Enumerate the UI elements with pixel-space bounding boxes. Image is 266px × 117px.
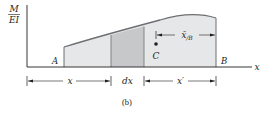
- moment-area-diagram: M EI x A B C x̄/B x dx x′ (b): [0, 0, 266, 117]
- y-axis-label-m: M: [8, 4, 19, 14]
- dim-xprime-arrow-right-icon: [210, 80, 215, 83]
- dim-xprime-arrow-left-icon: [145, 80, 150, 83]
- x-axis-label: x: [254, 62, 259, 72]
- dim-x-arrow-right-icon: [105, 80, 110, 83]
- figure-caption: (b): [122, 97, 132, 107]
- dim-dx-label: dx: [122, 76, 133, 86]
- dim-xprime-label: x′: [177, 76, 184, 86]
- point-a-label: A: [51, 56, 58, 66]
- centroid-label: C: [153, 51, 160, 61]
- y-axis-label-ei: EI: [8, 15, 20, 25]
- centroid-dot: [154, 42, 158, 46]
- point-b-label: B: [220, 56, 227, 66]
- dim-x-label: x: [67, 76, 72, 86]
- dim-x-arrow-left-icon: [28, 80, 33, 83]
